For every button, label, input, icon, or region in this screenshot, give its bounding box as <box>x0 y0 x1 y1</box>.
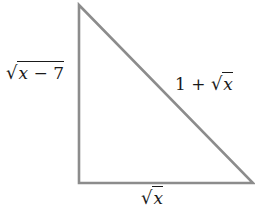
horizontal-leg-label: √x <box>141 189 163 207</box>
radicand-variable: x <box>18 63 28 83</box>
radicand-rest: − 7 <box>28 63 64 83</box>
triangle-figure <box>0 0 255 213</box>
hypotenuse-label: 1 + √x <box>175 75 233 93</box>
radicand-variable: x <box>153 188 163 208</box>
sqrt-symbol: √ <box>141 187 152 208</box>
right-triangle <box>79 5 253 183</box>
sqrt-symbol: √ <box>211 73 222 94</box>
hypotenuse-prefix: 1 + <box>175 74 211 94</box>
sqrt-symbol: √ <box>6 62 17 83</box>
vertical-leg-label: √x − 7 <box>6 64 64 82</box>
radicand-variable: x <box>223 74 233 94</box>
